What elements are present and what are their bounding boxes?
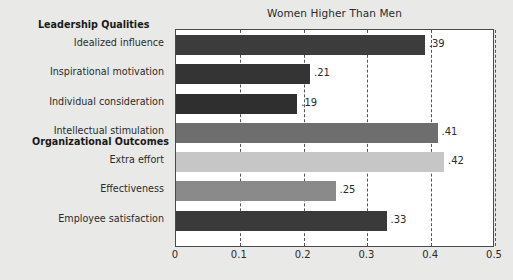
x-axis: 00.10.20.30.40.5 bbox=[175, 249, 494, 269]
gridline bbox=[495, 30, 496, 246]
bar-value-label: .42 bbox=[448, 155, 464, 166]
category-label: Idealized influence bbox=[74, 37, 164, 48]
bar-value-label: .21 bbox=[314, 67, 330, 78]
x-tick-label: 0.4 bbox=[422, 249, 438, 260]
x-tick-label: 0.2 bbox=[295, 249, 311, 260]
x-tick-label: 0.3 bbox=[358, 249, 374, 260]
category-label: Inspirational motivation bbox=[50, 66, 164, 77]
bar bbox=[176, 64, 310, 84]
bar bbox=[176, 123, 438, 143]
x-tick-label: 0.1 bbox=[231, 249, 247, 260]
bar-value-label: .33 bbox=[391, 214, 407, 225]
group-header: Organizational Outcomes bbox=[32, 136, 169, 147]
category-label: Intellectual stimulation bbox=[54, 125, 164, 136]
group-header: Leadership Qualities bbox=[38, 19, 149, 30]
category-label: Employee satisfaction bbox=[58, 213, 164, 224]
category-label: Individual consideration bbox=[49, 96, 164, 107]
bars-layer: .39.21.19.41.42.25.33 bbox=[176, 30, 493, 246]
bar-value-label: .25 bbox=[340, 184, 356, 195]
bar bbox=[176, 152, 444, 172]
chart-title: Women Higher Than Men bbox=[175, 7, 494, 19]
bar-chart-figure: Women Higher Than Men Idealized influenc… bbox=[0, 0, 513, 280]
x-tick-label: 0 bbox=[172, 249, 178, 260]
bar bbox=[176, 35, 425, 55]
plot-area: .39.21.19.41.42.25.33 bbox=[175, 29, 494, 247]
category-label-column: Idealized influenceInspirational motivat… bbox=[0, 10, 170, 250]
category-label: Extra effort bbox=[110, 154, 164, 165]
bar bbox=[176, 94, 297, 114]
x-tick-label: 0.5 bbox=[486, 249, 502, 260]
bar bbox=[176, 211, 387, 231]
bar-value-label: .41 bbox=[442, 126, 458, 137]
bar-value-label: .19 bbox=[301, 97, 317, 108]
category-label: Effectiveness bbox=[100, 183, 164, 194]
bar bbox=[176, 181, 336, 201]
bar-value-label: .39 bbox=[429, 38, 445, 49]
